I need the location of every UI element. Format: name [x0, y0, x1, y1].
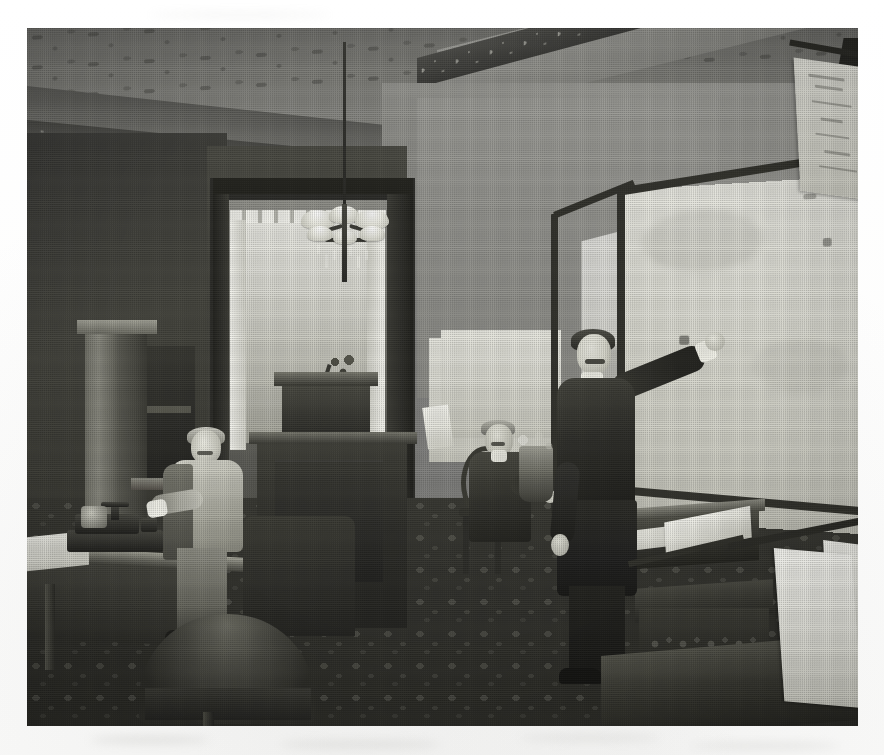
standing-desk-cap	[274, 372, 378, 386]
hand	[551, 534, 569, 556]
chandelier-prism	[317, 244, 320, 254]
chalk-smear	[642, 207, 763, 274]
ticker-reel	[141, 518, 157, 532]
photograph	[27, 28, 858, 726]
map-marking	[812, 100, 852, 108]
map-marking	[821, 117, 843, 123]
scan-smudge	[90, 736, 210, 744]
shirt-cuff	[146, 499, 168, 519]
cabinet-cornice	[77, 320, 157, 334]
moustache	[585, 359, 605, 364]
map-marking	[815, 133, 849, 140]
shirt-collar	[491, 450, 507, 462]
center-desk-edge	[249, 432, 417, 444]
chandelier-prism	[365, 250, 368, 260]
moustache	[197, 451, 213, 455]
dark-chair	[243, 516, 355, 636]
board-chalk-mark	[803, 193, 816, 199]
board-chalk-mark	[823, 238, 832, 247]
scan-smudge	[280, 740, 440, 749]
map-marking	[819, 165, 857, 172]
hanging-wall-map	[794, 57, 858, 202]
map-marking	[808, 74, 844, 82]
chandelier-prism	[333, 250, 336, 260]
chandelier-rod	[343, 42, 346, 207]
chalk-smear	[752, 339, 849, 393]
head	[577, 334, 611, 374]
left-desk-leg	[45, 584, 55, 670]
scan-smudge	[520, 734, 660, 742]
chandelier-prism	[357, 256, 360, 268]
head	[191, 430, 221, 464]
moustache	[491, 442, 505, 446]
map-marking	[815, 85, 843, 92]
slant-table-sheet	[774, 548, 858, 708]
hand-with-chalk	[705, 332, 725, 351]
chandelier-shade	[307, 226, 333, 241]
armchair-leg	[203, 712, 214, 726]
curtain-left	[230, 220, 246, 450]
ticker-glass-dome	[81, 506, 107, 528]
shoe	[559, 668, 603, 684]
door-head-casing	[213, 178, 413, 194]
scan-smudge	[150, 12, 330, 18]
armchair-skirt	[145, 688, 311, 720]
scan-smudge	[690, 742, 840, 750]
chandelier-shade	[359, 226, 385, 241]
map-marking	[824, 150, 850, 157]
chandelier-prism	[349, 246, 352, 256]
chandelier-stem	[342, 204, 347, 282]
cabinet-shelf	[143, 406, 191, 413]
chandelier-prism	[325, 254, 328, 268]
